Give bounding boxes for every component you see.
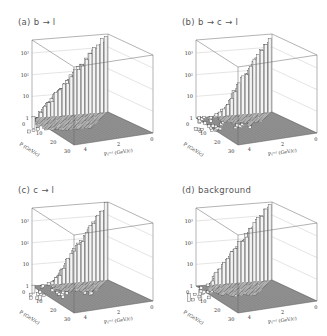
p-tick-label: 10 [200,298,206,304]
ptrel-tick-label: 0 [150,136,153,142]
panel-b: (b) b → c → l 11010²10³0102030420P (GeV/… [164,0,327,168]
p-tick-label: 30 [228,148,234,154]
p-tick-label: 0 [186,121,189,127]
ptrel-tick-label: 4 [248,314,251,320]
ptrel-tick-label: 2 [117,309,120,315]
ptrel-tick-label: 4 [84,314,87,320]
z-tick-label: 10³ [175,218,193,224]
panel-d: (d) background 11010²10³0102030420P (GeV… [164,168,327,336]
ptrel-tick-label: 2 [281,309,284,315]
ptrel-tick-label: 0 [314,304,317,310]
panel-title: (b) b → c → l [182,17,238,27]
z-tick-label: 10² [175,72,193,78]
panel-a: (a) b → l 11010²10³0102030420P (GeV/c)Pₜ… [0,0,163,168]
z-tick-label: 1 [11,115,29,121]
panel-title: (c) c → l [18,185,54,195]
p-tick-label: 10 [200,130,206,136]
ptrel-tick-label: 4 [84,146,87,152]
p-tick-label: 0 [22,121,25,127]
z-tick-label: 10² [11,240,29,246]
ptrel-tick-label: 2 [117,141,120,147]
z-tick-label: 10 [11,93,29,99]
z-tick-label: 10² [11,72,29,78]
z-tick-label: 10³ [11,218,29,224]
z-tick-label: 10 [175,261,193,267]
panel-title: (d) background [182,185,251,195]
p-tick-label: 20 [214,307,220,313]
z-tick-label: 1 [175,115,193,121]
z-tick-label: 10³ [11,50,29,56]
ptrel-tick-label: 4 [248,146,251,152]
p-tick-label: 30 [64,148,70,154]
z-tick-label: 1 [175,283,193,289]
p-tick-label: 30 [228,316,234,322]
p-tick-label: 20 [214,139,220,145]
panel-c: (c) c → l 11010²10³0102030420P (GeV/c)Pₜ… [0,168,163,336]
z-tick-label: 1 [11,283,29,289]
p-tick-label: 30 [64,316,70,322]
p-tick-label: 20 [50,307,56,313]
z-tick-label: 10 [175,93,193,99]
p-tick-label: 10 [36,130,42,136]
p-tick-label: 20 [50,139,56,145]
ptrel-tick-label: 0 [150,304,153,310]
p-tick-label: 0 [22,289,25,295]
z-tick-label: 10³ [175,50,193,56]
panel-title: (a) b → l [18,17,56,27]
z-tick-label: 10 [11,261,29,267]
ptrel-tick-label: 0 [314,136,317,142]
p-tick-label: 10 [36,298,42,304]
p-tick-label: 0 [186,289,189,295]
z-tick-label: 10² [175,240,193,246]
ptrel-tick-label: 2 [281,141,284,147]
